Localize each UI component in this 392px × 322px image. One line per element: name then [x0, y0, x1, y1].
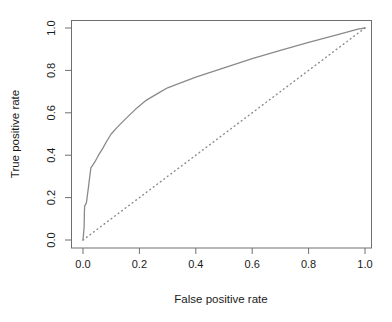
- y-tick-label: 0.4: [45, 148, 57, 163]
- y-tick-label: 1.0: [45, 20, 57, 35]
- y-axis-title: True positive rate: [9, 90, 21, 178]
- x-tick-label: 0.2: [132, 258, 147, 270]
- y-axis-tick-labels: 0.00.20.40.60.81.0: [45, 20, 57, 247]
- x-tick-label: 0.6: [245, 258, 260, 270]
- x-axis-ticks: [83, 248, 365, 254]
- x-axis-tick-labels: 0.00.20.40.60.81.0: [75, 258, 372, 270]
- x-tick-label: 1.0: [357, 258, 372, 270]
- y-tick-label: 0.0: [45, 232, 57, 247]
- x-tick-label: 0.8: [301, 258, 316, 270]
- x-tick-label: 0.0: [75, 258, 90, 270]
- roc-plot-canvas: 0.00.20.40.60.81.0 0.00.20.40.60.81.0 Fa…: [0, 0, 392, 322]
- x-tick-label: 0.4: [188, 258, 203, 270]
- chance-diagonal-line: [83, 28, 365, 240]
- y-axis-ticks: [65, 28, 71, 240]
- x-axis-title: False positive rate: [174, 293, 267, 305]
- y-tick-label: 0.8: [45, 63, 57, 78]
- y-tick-label: 0.6: [45, 105, 57, 120]
- y-tick-label: 0.2: [45, 190, 57, 205]
- plot-border: [72, 21, 372, 249]
- roc-chart-figure: 0.00.20.40.60.81.0 0.00.20.40.60.81.0 Fa…: [0, 0, 392, 322]
